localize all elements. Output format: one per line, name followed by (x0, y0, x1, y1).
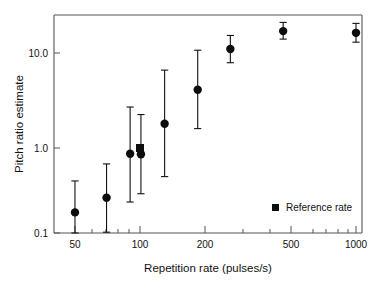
x-tick-label-100: 100 (132, 239, 149, 250)
data-marker (279, 27, 287, 35)
x-tick-label-1000: 1000 (345, 239, 368, 250)
data-marker (71, 208, 79, 216)
y-tick-label-1: 1.0 (34, 143, 48, 154)
y-tick-label-0-1: 0.1 (34, 228, 48, 239)
legend-label-reference-rate: Reference rate (286, 202, 353, 213)
data-marker (194, 86, 202, 94)
data-marker (226, 45, 234, 53)
y-axis-title: Pitch ratio estimate (13, 75, 25, 173)
x-tick-label-50: 50 (69, 239, 81, 250)
x-axis-title: Repetition rate (pulses/s) (144, 262, 272, 274)
data-marker (126, 150, 134, 158)
data-point (136, 144, 144, 152)
x-tick-label-500: 500 (283, 239, 300, 250)
data-marker (102, 193, 110, 201)
pitch-ratio-chart: 10.0 1.0 0.1 Pitch ratio estimate 50 100… (0, 0, 385, 292)
reference-rate-marker (136, 144, 144, 152)
chart-background (0, 0, 385, 292)
y-tick-label-10: 10.0 (29, 48, 49, 59)
data-marker (352, 29, 360, 37)
data-marker (160, 120, 168, 128)
legend-square-icon (272, 204, 279, 211)
x-tick-label-200: 200 (197, 239, 214, 250)
